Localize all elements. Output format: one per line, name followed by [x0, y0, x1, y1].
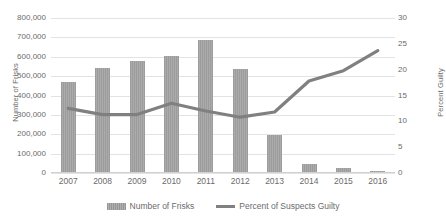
y-axis-left-tick-label: 400,000: [2, 92, 46, 100]
x-axis-tick-label: 2013: [257, 176, 291, 186]
x-axis-tick-label: 2012: [223, 176, 257, 186]
y-axis-left-tick-label: 100,000: [2, 150, 46, 158]
x-axis-tick-label: 2015: [326, 176, 360, 186]
plot-area: [51, 18, 395, 173]
y-axis-right-tick-label: 20: [398, 66, 424, 74]
legend-item[interactable]: Number of Frisks: [107, 201, 195, 211]
y-axis-right-ticks: 051015202530: [398, 0, 424, 222]
y-axis-right-tick-label: 0: [398, 169, 424, 177]
y-axis-right-tick-label: 30: [398, 14, 424, 22]
x-axis-tick-label: 2014: [292, 176, 326, 186]
y-axis-left-tick-label: 300,000: [2, 111, 46, 119]
x-axis-tick-label: 2011: [189, 176, 223, 186]
y-axis-left-tick-label: 0: [2, 169, 46, 177]
x-axis-tick-label: 2009: [120, 176, 154, 186]
line-series: [51, 18, 395, 173]
chart-container: Number of Frisks Percent Guilty 0100,000…: [0, 0, 446, 222]
gridline: [51, 173, 395, 174]
y-axis-left-tick-label: 200,000: [2, 130, 46, 138]
y-axis-left-tick-label: 600,000: [2, 53, 46, 61]
y-axis-right-tick-label: 15: [398, 92, 424, 100]
legend-item-label: Number of Frisks: [130, 201, 195, 211]
chart-legend: Number of FrisksPercent of Suspects Guil…: [0, 201, 446, 211]
x-axis-labels: 2007200820092010201120122013201420152016: [51, 176, 395, 192]
x-axis-tick-label: 2016: [361, 176, 395, 186]
axis-baseline: [51, 172, 395, 173]
y-axis-right-title: Percent Guilty: [436, 45, 445, 141]
y-axis-left-tick-label: 500,000: [2, 72, 46, 80]
y-axis-right-tick-label: 10: [398, 117, 424, 125]
bar-swatch-icon: [107, 203, 126, 210]
y-axis-left-tick-label: 700,000: [2, 33, 46, 41]
y-axis-right-tick-label: 25: [398, 40, 424, 48]
line-swatch-icon: [216, 205, 235, 208]
y-axis-right-tick-label: 5: [398, 143, 424, 151]
x-axis-tick-label: 2007: [51, 176, 85, 186]
legend-item-label: Percent of Suspects Guilty: [239, 201, 339, 211]
x-axis-tick-label: 2010: [154, 176, 188, 186]
legend-item[interactable]: Percent of Suspects Guilty: [216, 201, 339, 211]
y-axis-left-tick-label: 800,000: [2, 14, 46, 22]
x-axis-tick-label: 2008: [85, 176, 119, 186]
percent-guilty-line: [68, 51, 378, 118]
y-axis-left-ticks: 0100,000200,000300,000400,000500,000600,…: [2, 0, 46, 222]
